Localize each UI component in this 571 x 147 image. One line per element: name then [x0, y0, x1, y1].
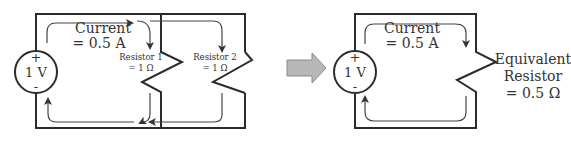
parallel-circuit: + 1 V - Current = 0.5 A Resistor 1 = 1 Ω…: [15, 14, 252, 128]
current-value: = 0.5 A: [72, 35, 126, 51]
equivalent-circuit: + 1 V - Current = 0.5 A Equivalent Resis…: [334, 14, 571, 128]
equivalent-resistor-label: Equivalent: [495, 51, 571, 67]
source-voltage-label: 1 V: [25, 65, 47, 80]
current-value: = 0.5 A: [385, 35, 439, 51]
resistor-2-value: = 1 Ω: [203, 63, 228, 73]
voltage-source: + 1 V -: [15, 50, 57, 94]
minus-terminal: -: [34, 79, 38, 94]
resistor-1-value: = 1 Ω: [129, 63, 154, 73]
plus-terminal: +: [31, 50, 42, 65]
circuit-diagram: + 1 V - Current = 0.5 A Resistor 1 = 1 Ω…: [0, 0, 571, 147]
right-arrow-icon: [287, 53, 326, 83]
resistor-2-label: Resistor 2: [193, 52, 237, 62]
equivalent-resistor-label-2: Resistor: [504, 68, 563, 84]
voltage-source: + 1 V -: [334, 50, 376, 94]
plus-terminal: +: [350, 50, 361, 65]
minus-terminal: -: [353, 79, 357, 94]
current-label: Current: [384, 20, 440, 36]
resistor-1-label: Resistor 1: [119, 52, 163, 62]
current-label: Current: [75, 20, 131, 36]
equivalent-resistor-value: = 0.5 Ω: [506, 85, 561, 101]
source-voltage-label: 1 V: [344, 65, 366, 80]
